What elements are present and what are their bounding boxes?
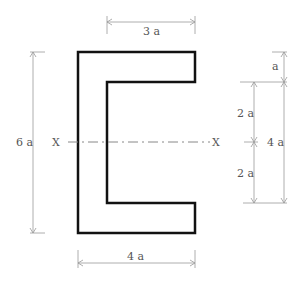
- axis-label-right: X: [212, 136, 220, 149]
- dim-upper-half-label: 2 a: [237, 107, 254, 120]
- dim-lower-half-label: 2 a: [237, 167, 254, 180]
- axis-label-left: X: [52, 136, 60, 149]
- dim-top-width-label: 3 a: [143, 25, 160, 38]
- dim-web-height-label: 4 a: [267, 136, 284, 149]
- dim-flange-thickness-label: a: [272, 60, 279, 73]
- c-section-diagram: X X 3 a 4 a 6 a a 2 a 2 a: [0, 0, 305, 285]
- dim-bottom-width-label: 4 a: [127, 250, 144, 263]
- dim-flange-thickness: [240, 52, 287, 82]
- dim-total-height-label: 6 a: [16, 136, 33, 149]
